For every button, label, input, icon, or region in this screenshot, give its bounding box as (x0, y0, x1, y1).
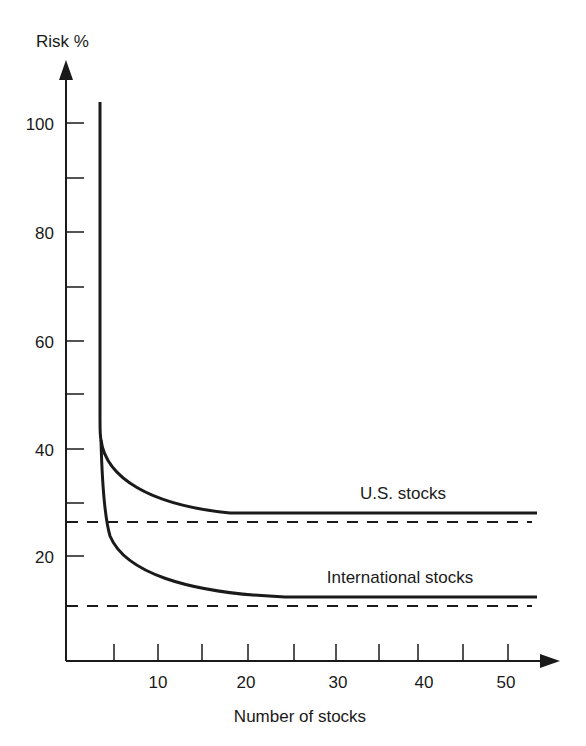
x-tick-label-30: 30 (329, 673, 348, 692)
y-tick-label-40: 40 (35, 441, 54, 460)
x-axis-title: Number of stocks (234, 707, 366, 726)
y-tick-label-80: 80 (35, 224, 54, 243)
us-stocks-curve (100, 102, 537, 513)
x-tick-label-10: 10 (149, 673, 168, 692)
x-ticks (114, 644, 508, 661)
risk-chart: 100 80 60 40 20 10 20 30 40 50 Risk % Nu… (0, 0, 586, 746)
x-tick-label-40: 40 (415, 673, 434, 692)
y-ticks (66, 123, 84, 556)
y-tick-label-60: 60 (35, 333, 54, 352)
y-tick-label-20: 20 (35, 548, 54, 567)
y-tick-label-100: 100 (26, 115, 54, 134)
x-tick-label-20: 20 (237, 673, 256, 692)
x-tick-label-50: 50 (497, 673, 516, 692)
us-stocks-label: U.S. stocks (360, 484, 446, 503)
x-axis-arrow-icon (540, 654, 560, 668)
y-axis-title: Risk % (36, 32, 89, 51)
y-axis-arrow-icon (59, 60, 73, 80)
intl-stocks-label: International stocks (327, 568, 473, 587)
